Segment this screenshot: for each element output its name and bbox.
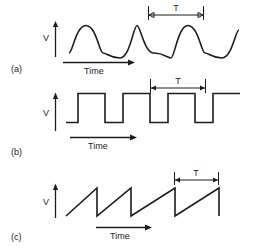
v-axis-label-sine: V [43, 33, 49, 43]
panel-square: T V Time (b) [11, 76, 240, 157]
panel-label-b: (b) [11, 147, 22, 157]
sine-waveform [69, 26, 239, 59]
v-axis-sine: V [43, 21, 58, 57]
panel-sawtooth: T V Time (c) [11, 168, 219, 242]
sawtooth-waveform [66, 188, 219, 216]
time-axis-label-sine: Time [84, 66, 104, 76]
time-axis-sine: Time [63, 60, 135, 76]
square-waveform [66, 94, 240, 123]
v-axis-label-sawtooth: V [43, 197, 49, 207]
v-axis-label-square: V [43, 108, 49, 118]
time-axis-sawtooth: Time [96, 225, 152, 241]
period-marker-sine: T [149, 3, 204, 20]
period-marker-square: T [151, 76, 206, 93]
figure-canvas: T V Time (a) [0, 0, 257, 251]
period-label-sawtooth: T [193, 168, 199, 178]
panel-label-c: (c) [11, 232, 22, 242]
waveform-figure: T V Time (a) [0, 0, 257, 251]
panel-sine: T V Time (a) [11, 3, 239, 76]
v-axis-sawtooth: V [43, 184, 58, 219]
period-label-square: T [175, 76, 181, 86]
v-axis-square: V [43, 93, 58, 132]
panel-label-a: (a) [11, 64, 22, 74]
period-label-sine: T [173, 3, 179, 13]
period-marker-sawtooth: T [175, 168, 219, 185]
time-axis-label-square: Time [88, 141, 108, 151]
time-axis-square: Time [70, 135, 137, 151]
time-axis-label-sawtooth: Time [110, 231, 130, 241]
